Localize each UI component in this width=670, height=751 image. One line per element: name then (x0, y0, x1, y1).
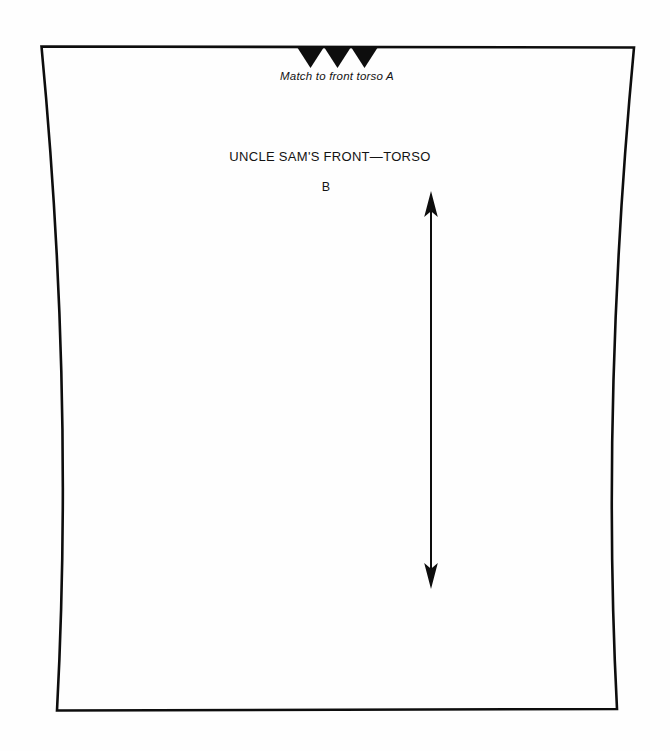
pattern-scan-page: Match to front torso A UNCLE SAM'S FRONT… (0, 0, 670, 751)
match-note-label: Match to front torso A (280, 70, 394, 82)
grain-line-arrow-icon (424, 191, 438, 589)
pattern-piece-graphic (0, 0, 670, 751)
notch-triangle-icon (351, 47, 378, 68)
notch-triangle-icon (324, 47, 351, 68)
pattern-piece-title: UNCLE SAM'S FRONT—TORSO (229, 149, 430, 164)
notch-triangle-icon (297, 47, 324, 68)
pattern-outline-path (42, 47, 635, 711)
piece-letter-label: B (322, 180, 330, 194)
